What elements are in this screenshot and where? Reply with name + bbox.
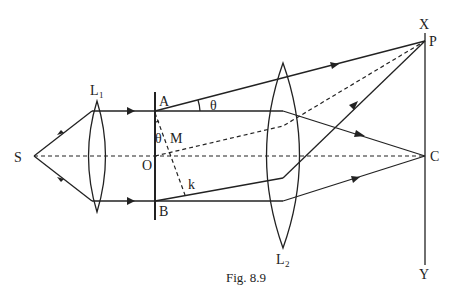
ray-a-to-c xyxy=(283,111,425,156)
label-m: M xyxy=(170,131,183,146)
label-s: S xyxy=(14,150,22,165)
ray-o-to-p xyxy=(155,41,425,156)
arrow-icon xyxy=(351,176,360,183)
single-slit-diffraction-diagram: S L 1 A θ θ M O k B L 2 X P C Y Fig. 8.9 xyxy=(0,0,452,299)
label-theta-top: θ xyxy=(210,98,217,113)
label-o: O xyxy=(142,158,152,173)
label-b: B xyxy=(159,204,168,219)
perpendicular-a-k xyxy=(155,113,185,195)
ray-a-to-p xyxy=(155,41,425,111)
label-theta-slit: θ xyxy=(155,131,162,146)
figure-caption: Fig. 8.9 xyxy=(226,270,266,285)
label-k: k xyxy=(188,177,195,192)
arrow-icon xyxy=(127,107,135,115)
label-p: P xyxy=(429,34,437,49)
label-l1-sub: 1 xyxy=(99,90,104,100)
arrow-icon xyxy=(349,101,358,110)
arrow-icon xyxy=(354,130,365,137)
label-l2: L xyxy=(276,252,285,267)
ray-s-to-l1-top xyxy=(34,111,92,156)
label-l1: L xyxy=(90,83,99,98)
ray-s-to-l1-bottom xyxy=(34,156,92,201)
label-a: A xyxy=(159,94,170,109)
label-l2-sub: 2 xyxy=(285,259,290,269)
label-x: X xyxy=(419,17,429,32)
ray-b-diffracted xyxy=(155,178,283,201)
theta-arc-top xyxy=(198,100,200,111)
label-c: C xyxy=(430,149,439,164)
arrow-icon xyxy=(127,197,135,205)
label-y: Y xyxy=(419,267,429,282)
